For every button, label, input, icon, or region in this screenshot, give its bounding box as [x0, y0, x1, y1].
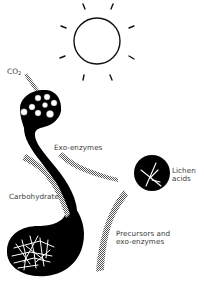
sun-icon — [60, 4, 134, 80]
exo-enzymes-label: Exo-enzymes — [54, 144, 102, 152]
precursors-label: Precursors and exo-enzymes — [116, 230, 170, 247]
lichen-acids-label: Lichen acids — [172, 167, 196, 184]
co2-label: CO2 — [7, 68, 21, 77]
exo-enzymes-flow — [58, 152, 118, 182]
crystal-icon — [134, 155, 170, 191]
carbohydrate-label: Carbohydrate — [9, 193, 59, 201]
